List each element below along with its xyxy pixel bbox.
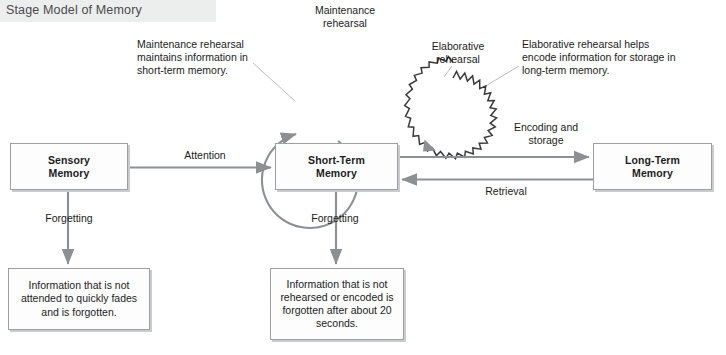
short-term-memory-box[interactable]: Short-Term Memory (275, 143, 398, 190)
long-term-memory-line2: Memory (632, 167, 673, 179)
attention-label: Attention (172, 149, 238, 162)
short-term-memory-label: Short-Term Memory (308, 154, 365, 179)
forgetting-label-short-term: Forgetting (302, 212, 368, 225)
retrieval-label: Retrieval (471, 185, 541, 198)
short-term-memory-line1: Short-Term (308, 154, 365, 166)
sensory-memory-box[interactable]: Sensory Memory (10, 143, 128, 190)
long-term-memory-line1: Long-Term (625, 154, 680, 166)
elaborative-rehearsal-loop-label: Elaborative rehearsal (424, 40, 492, 66)
leader-line-elaborative-label (444, 66, 452, 77)
elaborative-loop-squiggle-icon (405, 57, 497, 159)
short-term-memory-line2: Memory (316, 167, 357, 179)
sensory-memory-label: Sensory Memory (48, 154, 90, 179)
sensory-memory-line2: Memory (49, 167, 90, 179)
sensory-memory-note-box: Information that is not attended to quic… (8, 268, 150, 330)
diagram-canvas: Stage Model of Memory (0, 0, 726, 355)
sensory-memory-line1: Sensory (48, 154, 90, 166)
short-term-memory-note-box: Information that is not rehearsed or enc… (270, 268, 404, 340)
sensory-memory-note-text: Information that is not attended to quic… (9, 279, 149, 319)
maintenance-rehearsal-loop-label: Maintenance rehearsal (292, 4, 398, 30)
long-term-memory-box[interactable]: Long-Term Memory (593, 143, 712, 190)
encoding-and-storage-label: Encoding and storage (505, 121, 587, 147)
leader-line-elaborative (484, 66, 519, 87)
forgetting-label-sensory: Forgetting (36, 212, 102, 225)
long-term-memory-label: Long-Term Memory (625, 154, 680, 179)
short-term-memory-note-text: Information that is not rehearsed or enc… (271, 278, 403, 331)
maintenance-rehearsal-note: Maintenance rehearsal maintains informat… (137, 38, 269, 78)
elaborative-rehearsal-note: Elaborative rehearsal helps encode infor… (522, 38, 682, 78)
